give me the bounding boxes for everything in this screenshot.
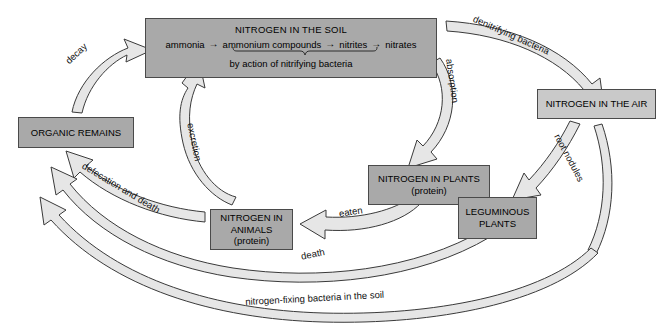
node-nitrogen-in-the-soil[interactable]: NITROGEN IN THE SOIL ammonia → ammonium …: [145, 18, 437, 78]
organic-remains-label: ORGANIC REMAINS: [31, 127, 121, 139]
nitrogen-cycle-diagram: .arw { fill: #e6e6e6; stroke: #3a3a3a; s…: [0, 0, 671, 329]
leguminous-label-line2: PLANTS: [479, 218, 516, 230]
chain-item-ammonium-compounds: ammonium compounds: [223, 39, 322, 51]
plants-label-line1: NITROGEN IN PLANTS: [378, 173, 480, 185]
node-nitrogen-in-the-air[interactable]: NITROGEN IN THE AIR: [537, 89, 656, 119]
arrow-nitrogen-fixing-upper-segment: [588, 124, 612, 254]
chain-item-nitrates: nitrates: [385, 39, 416, 51]
node-nitrogen-in-animals[interactable]: NITROGEN IN ANIMALS (protein): [210, 209, 293, 250]
node-leguminous-plants[interactable]: LEGUMINOUS PLANTS: [458, 197, 537, 239]
chain-arrow-icon: →: [324, 39, 336, 49]
animals-label-line2: ANIMALS: [231, 224, 273, 236]
leguminous-label-line1: LEGUMINOUS: [466, 206, 530, 218]
chain-arrow-icon: →: [208, 39, 220, 49]
nitrogen-in-the-air-label: NITROGEN IN THE AIR: [546, 98, 648, 110]
soil-title: NITROGEN IN THE SOIL: [235, 24, 347, 36]
animals-label-line3: (protein): [234, 235, 269, 247]
node-organic-remains[interactable]: ORGANIC REMAINS: [18, 117, 134, 148]
chain-item-nitrites: nitrites: [339, 39, 367, 51]
chain-item-ammonia: ammonia: [166, 39, 205, 51]
chain-arrow-icon: →: [370, 39, 382, 49]
soil-footer-note: by action of nitrifying bacteria: [229, 58, 352, 70]
animals-label-line1: NITROGEN IN: [220, 212, 282, 224]
plants-label-line2: (protein): [411, 185, 446, 197]
soil-chain: ammonia → ammonium compounds → nitrites …: [166, 39, 417, 51]
